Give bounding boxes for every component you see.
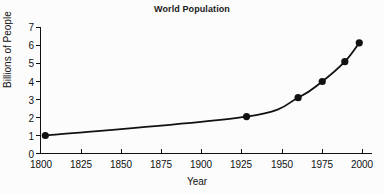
data-point <box>295 94 302 101</box>
data-point <box>341 58 348 65</box>
y-axis-ticks <box>36 28 41 154</box>
data-point <box>356 39 363 46</box>
population-line <box>45 43 359 136</box>
data-point <box>319 78 326 85</box>
population-markers <box>42 39 363 139</box>
data-point <box>243 113 250 120</box>
x-axis-ticks <box>41 149 363 154</box>
chart-figure: World Population 7 6 5 4 3 2 1 0 1800 18… <box>0 0 384 194</box>
plot-area <box>0 0 384 194</box>
data-point <box>42 132 49 139</box>
